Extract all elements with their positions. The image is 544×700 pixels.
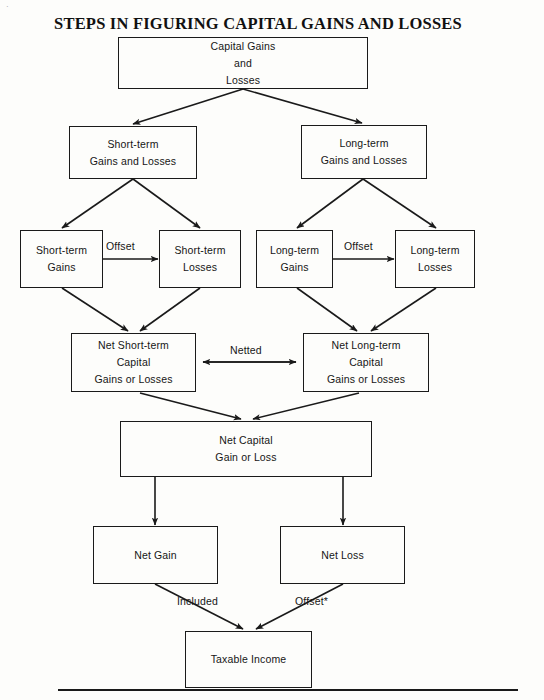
node-line: and bbox=[234, 55, 252, 72]
edge-stgains-to-netshort bbox=[62, 288, 128, 331]
node-net-gain[interactable]: Net Gain bbox=[93, 526, 218, 584]
node-short-term-gains[interactable]: Short-term Gains bbox=[20, 230, 103, 288]
node-line: Gains and Losses bbox=[321, 152, 407, 169]
node-capital-gains-losses[interactable]: Capital Gains and Losses bbox=[118, 37, 368, 89]
edge-netshort-to-netcapital bbox=[140, 393, 241, 419]
node-net-loss[interactable]: Net Loss bbox=[280, 526, 405, 584]
node-line: Losses bbox=[183, 259, 217, 276]
node-line: Net Gain bbox=[134, 547, 177, 564]
node-short-term-gains-and-losses[interactable]: Short-term Gains and Losses bbox=[69, 126, 197, 179]
edge-long-to-ltgains bbox=[297, 179, 363, 228]
node-line: Gains or Losses bbox=[327, 371, 405, 388]
node-line: Gains bbox=[47, 259, 75, 276]
node-long-term-gains-and-losses[interactable]: Long-term Gains and Losses bbox=[301, 125, 427, 179]
edge-label-netted: Netted bbox=[230, 344, 262, 356]
node-short-term-losses[interactable]: Short-term Losses bbox=[159, 230, 241, 288]
node-line: Long-term bbox=[339, 135, 388, 152]
edge-label-offset-star: Offset* bbox=[295, 595, 328, 607]
node-line: Short-term bbox=[36, 242, 87, 259]
flowchart-page: · STEPS IN FIGURING CAPITAL GAINS AND LO… bbox=[0, 0, 544, 700]
edge-root-to-short bbox=[133, 89, 243, 124]
node-line: Net Capital bbox=[219, 432, 273, 449]
edge-stlosses-to-netshort bbox=[140, 288, 200, 331]
node-line: Gains and Losses bbox=[90, 153, 176, 170]
node-line: Short-term bbox=[174, 242, 225, 259]
edge-ltgains-to-netlong bbox=[297, 288, 357, 331]
footer-rule bbox=[58, 689, 518, 691]
edge-short-to-stlosses bbox=[133, 179, 200, 228]
page-title: STEPS IN FIGURING CAPITAL GAINS AND LOSS… bbox=[0, 14, 516, 34]
node-line: Capital bbox=[117, 354, 151, 371]
node-line: Taxable Income bbox=[211, 651, 287, 668]
node-line: Gains or Losses bbox=[94, 371, 172, 388]
page-corner-mark: · bbox=[6, 4, 12, 10]
edge-long-to-ltlosses bbox=[363, 179, 436, 228]
edge-root-to-long bbox=[243, 89, 362, 123]
edge-ltlosses-to-netlong bbox=[371, 288, 436, 331]
node-line: Long-term bbox=[410, 242, 459, 259]
node-net-capital[interactable]: Net Capital Gain or Loss bbox=[120, 421, 372, 477]
node-line: Gain or Loss bbox=[215, 449, 276, 466]
node-line: Net Short-term bbox=[98, 337, 169, 354]
node-long-term-gains[interactable]: Long-term Gains bbox=[256, 230, 333, 288]
node-line: Gains bbox=[280, 259, 308, 276]
node-line: Net Loss bbox=[321, 547, 364, 564]
node-line: Capital bbox=[349, 354, 383, 371]
node-long-term-losses[interactable]: Long-term Losses bbox=[395, 230, 475, 288]
node-line: Losses bbox=[226, 72, 260, 89]
edge-label-offset-short: Offset bbox=[106, 240, 135, 252]
node-line: Net Long-term bbox=[331, 337, 400, 354]
node-line: Short-term bbox=[107, 136, 158, 153]
node-net-long-term[interactable]: Net Long-term Capital Gains or Losses bbox=[303, 333, 429, 392]
edge-short-to-stgains bbox=[62, 179, 133, 228]
edge-label-offset-long: Offset bbox=[344, 240, 373, 252]
node-line: Losses bbox=[418, 259, 452, 276]
edge-netlong-to-netcapital bbox=[253, 393, 359, 419]
node-line: Long-term bbox=[270, 242, 319, 259]
node-taxable-income[interactable]: Taxable Income bbox=[185, 631, 312, 688]
node-line: Capital Gains bbox=[211, 38, 276, 55]
edge-label-included: Included bbox=[177, 595, 218, 607]
node-net-short-term[interactable]: Net Short-term Capital Gains or Losses bbox=[71, 333, 196, 392]
